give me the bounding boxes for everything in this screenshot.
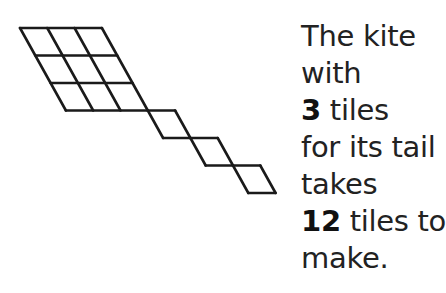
- caption-text: The kite with 3 tiles for its tail takes…: [301, 18, 446, 277]
- kite-diagram: [0, 0, 300, 293]
- total-count: 12: [301, 204, 341, 238]
- tail-count: 3: [301, 93, 321, 127]
- caption-line-6: 12 tiles to: [301, 203, 446, 240]
- caption-line-7: make.: [301, 240, 446, 277]
- caption-line-1: The kite: [301, 18, 446, 55]
- caption-line-3: 3 tiles: [301, 92, 446, 129]
- kite-tiles: [20, 28, 276, 193]
- caption-line-5: takes: [301, 166, 446, 203]
- caption-line-4: for its tail: [301, 129, 446, 166]
- caption-line-2: with: [301, 55, 446, 92]
